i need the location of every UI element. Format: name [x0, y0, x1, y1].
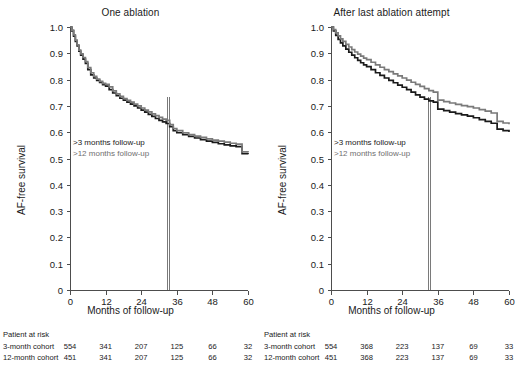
y-tick-label: 0.2 [311, 232, 324, 243]
plot-area-after-last-ablation-attempt: 00.10.20.30.40.50.60.70.80.91.0012243648… [261, 0, 522, 374]
risk-row-label: 3-month cohort [3, 341, 54, 352]
y-tick-label: 0.5 [311, 154, 324, 165]
risk-value: 223 [389, 352, 415, 363]
survival-curve-12-month [70, 27, 248, 152]
risk-value: 69 [460, 352, 486, 363]
y-tick-label: 1.0 [311, 22, 324, 33]
risk-table-row: 12-month cohort4513682231376933 [264, 352, 522, 363]
risk-value: 66 [199, 341, 225, 352]
risk-value: 125 [164, 352, 190, 363]
survival-curve-12-month [331, 27, 509, 124]
y-tick-label: 0.5 [50, 154, 63, 165]
risk-row-label: 3-month cohort [264, 341, 315, 352]
risk-value: 137 [425, 352, 451, 363]
risk-value: 33 [496, 352, 522, 363]
risk-value: 223 [389, 341, 415, 352]
risk-value: 33 [496, 341, 522, 352]
risk-value: 137 [425, 341, 451, 352]
y-tick-label: 0.9 [311, 48, 324, 59]
panel-after-last-ablation-attempt: After last ablation attempt 00.10.20.30.… [261, 0, 522, 374]
plot-area-one-ablation: 00.10.20.30.40.50.60.70.80.91.0012243648… [0, 0, 261, 374]
y-tick-label: 0.1 [50, 259, 63, 270]
risk-value: 451 [318, 352, 344, 363]
risk-table-caption: Patient at risk [3, 330, 261, 339]
risk-value: 451 [57, 352, 83, 363]
y-axis-label: AF-free survival [277, 145, 288, 215]
y-tick-label: 0.7 [50, 101, 63, 112]
risk-table-row: 12-month cohort4513412071256632 [3, 352, 261, 363]
risk-table-grid: 3-month cohort554341207125663212-month c… [3, 341, 261, 365]
risk-table-caption: Patient at risk [264, 330, 522, 339]
y-tick-label: 0.8 [50, 75, 63, 86]
y-tick-label: 0.6 [311, 127, 324, 138]
y-tick-label: 1.0 [50, 22, 63, 33]
risk-value: 207 [128, 341, 154, 352]
y-tick-label: 0.8 [311, 75, 324, 86]
y-tick-label: 0.6 [50, 127, 63, 138]
panel-one-ablation: One ablation 00.10.20.30.40.50.60.70.80.… [0, 0, 261, 374]
risk-table-row: 3-month cohort5543412071256632 [3, 341, 261, 352]
legend: >3 months follow-up >12 months follow-up [73, 138, 149, 159]
risk-value: 554 [318, 341, 344, 352]
risk-value: 368 [354, 341, 380, 352]
risk-table-row: 3-month cohort5543682231376933 [264, 341, 522, 352]
risk-table-after-last-ablation-attempt: Patient at risk 3-month cohort5543682231… [264, 330, 522, 365]
risk-row-label: 12-month cohort [264, 352, 319, 363]
y-tick-label: 0 [58, 285, 63, 296]
risk-value: 207 [128, 352, 154, 363]
legend-item-12-month: >12 months follow-up [334, 149, 410, 160]
risk-value: 341 [93, 352, 119, 363]
risk-value: 341 [93, 341, 119, 352]
y-axis-label: AF-free survival [16, 145, 27, 215]
y-tick-label: 0.7 [311, 101, 324, 112]
x-axis-label: Months of follow-up [0, 305, 261, 316]
y-tick-label: 0.9 [50, 48, 63, 59]
y-tick-label: 0.3 [311, 206, 324, 217]
risk-row-label: 12-month cohort [3, 352, 58, 363]
risk-value: 554 [57, 341, 83, 352]
legend-item-3-month: >3 months follow-up [334, 138, 410, 149]
risk-table-one-ablation: Patient at risk 3-month cohort5543412071… [3, 330, 261, 365]
risk-value: 69 [460, 341, 486, 352]
risk-value: 32 [235, 352, 261, 363]
survival-curve-3-month [331, 27, 509, 132]
risk-value: 125 [164, 341, 190, 352]
risk-value: 66 [199, 352, 225, 363]
x-axis-label: Months of follow-up [261, 305, 522, 316]
y-tick-label: 0.2 [50, 232, 63, 243]
y-tick-label: 0.1 [311, 259, 324, 270]
y-tick-label: 0.4 [311, 180, 324, 191]
y-tick-label: 0.3 [50, 206, 63, 217]
legend-item-12-month: >12 months follow-up [73, 149, 149, 160]
y-tick-label: 0.4 [50, 180, 63, 191]
risk-table-grid: 3-month cohort554368223137693312-month c… [264, 341, 522, 365]
survival-figure: One ablation 00.10.20.30.40.50.60.70.80.… [0, 0, 522, 374]
legend-item-3-month: >3 months follow-up [73, 138, 149, 149]
risk-value: 32 [235, 341, 261, 352]
legend: >3 months follow-up >12 months follow-up [334, 138, 410, 159]
risk-value: 368 [354, 352, 380, 363]
survival-curve-3-month [70, 27, 248, 154]
y-tick-label: 0 [319, 285, 324, 296]
